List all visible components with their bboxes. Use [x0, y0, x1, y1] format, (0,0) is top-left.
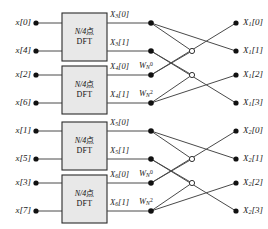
node-input-7: [33, 208, 38, 213]
input-label-3: x[6]: [2, 98, 31, 107]
output-4-idx: [0]: [252, 125, 264, 135]
node-input-3: [33, 100, 38, 105]
node-input-2: [33, 72, 38, 77]
twiddle-label-1: WN2: [139, 89, 153, 99]
output-label-6: X2[2]: [243, 178, 263, 187]
dft-box-3-n: N/4: [75, 189, 87, 198]
dft-box-label-3: N/4点 DFT: [62, 189, 107, 209]
node-output-7: [233, 208, 238, 213]
node-input-6: [33, 180, 38, 185]
intermediate-1-idx: [1]: [118, 37, 129, 47]
node-input-5: [33, 156, 38, 161]
node-junction-bot-1: [189, 180, 194, 185]
intermediate-4-idx: [0]: [118, 117, 129, 127]
node-stage1-4: [148, 128, 154, 134]
wire-bf-bot-d2: [151, 183, 236, 211]
dft-box-label-0: N/4点 DFT: [62, 27, 107, 47]
node-stage1-2: [148, 72, 154, 78]
intermediate-label-1: X3[1]: [110, 38, 129, 48]
output-label-3: X1[3]: [243, 98, 263, 107]
output-0-idx: [0]: [252, 17, 264, 27]
node-input-0: [33, 20, 38, 25]
node-stage1-0: [148, 20, 154, 26]
dft-box-3-cjk: 点: [86, 189, 94, 198]
wire-bf-top-a1: [151, 23, 236, 51]
output-label-7: X2[3]: [243, 206, 263, 215]
twiddle-3-sup: 2: [150, 197, 153, 203]
node-junction-top-0: [189, 48, 194, 53]
node-junction-top-1: [189, 72, 194, 77]
twiddle-2-sup: 0: [150, 169, 153, 175]
diagram-canvas: [0, 0, 268, 229]
wire-bf-bot-a2: [151, 131, 192, 159]
node-output-5: [233, 156, 238, 161]
input-label-4: x[1]: [2, 126, 31, 135]
intermediate-label-6: X6[0]: [110, 170, 129, 180]
node-input-1: [33, 48, 38, 53]
node-output-2: [233, 72, 238, 77]
node-output-6: [233, 180, 238, 185]
intermediate-label-7: X6[1]: [110, 198, 129, 208]
input-label-7: x[7]: [2, 206, 31, 215]
intermediate-3-idx: [1]: [118, 89, 129, 99]
dft-box-3-dft: DFT: [62, 199, 107, 209]
intermediate-6-idx: [0]: [118, 169, 129, 179]
output-3-idx: [3]: [252, 97, 264, 107]
intermediate-label-5: X5[1]: [110, 146, 129, 156]
node-junction-bot-0: [189, 156, 194, 161]
node-group-inputs: [33, 20, 38, 213]
output-label-1: X1[1]: [243, 46, 263, 55]
intermediate-7-idx: [1]: [118, 197, 129, 207]
dft-box-0-n: N/4: [75, 27, 87, 36]
input-label-2: x[2]: [2, 70, 31, 79]
node-group-stage1: [148, 20, 154, 214]
output-1-idx: [1]: [252, 45, 264, 55]
dft-box-0-dft: DFT: [62, 37, 107, 47]
node-group-junctions: [189, 48, 194, 185]
twiddle-0-sup: 0: [150, 61, 153, 67]
node-group-outputs: [233, 20, 238, 213]
dft-box-0-cjk: 点: [86, 27, 94, 36]
output-label-0: X1[0]: [243, 18, 263, 27]
dft-box-label-1: N/4点 DFT: [62, 80, 107, 100]
intermediate-label-2: X4[0]: [110, 62, 129, 72]
dft-box-1-dft: DFT: [62, 90, 107, 100]
wire-bf-bot-a1: [151, 131, 236, 159]
intermediate-label-4: X5[0]: [110, 118, 129, 128]
fft-butterfly-diagram: x[0] x[4] x[2] x[6] x[1] x[5] x[3] x[7] …: [0, 0, 268, 229]
output-2-idx: [2]: [252, 69, 264, 79]
intermediate-0-idx: [0]: [118, 9, 129, 19]
output-6-idx: [2]: [252, 177, 264, 187]
dft-box-2-n: N/4: [75, 136, 87, 145]
intermediate-2-idx: [0]: [118, 61, 129, 71]
input-label-1: x[4]: [2, 46, 31, 55]
input-label-5: x[5]: [2, 154, 31, 163]
wire-bf-top-d1: [151, 75, 192, 103]
dft-box-label-2: N/4点 DFT: [62, 136, 107, 156]
output-label-4: X2[0]: [243, 126, 263, 135]
intermediate-label-0: X3[0]: [110, 10, 129, 20]
node-stage1-1: [148, 48, 154, 54]
wire-bf-bot-d1: [151, 183, 192, 211]
node-output-3: [233, 100, 238, 105]
node-output-0: [233, 20, 238, 25]
dft-box-1-cjk: 点: [86, 80, 94, 89]
node-stage1-7: [148, 208, 154, 214]
node-output-1: [233, 48, 238, 53]
wire-bf-top-d2: [151, 75, 236, 103]
twiddle-label-0: WN0: [139, 61, 153, 71]
intermediate-label-3: X4[1]: [110, 90, 129, 100]
wire-bf-top-a2: [151, 23, 192, 51]
output-7-idx: [3]: [252, 205, 264, 215]
dft-box-2-dft: DFT: [62, 146, 107, 156]
dft-box-1-n: N/4: [75, 80, 87, 89]
twiddle-label-2: WN0: [139, 169, 153, 179]
node-output-4: [233, 128, 238, 133]
output-5-idx: [1]: [252, 153, 264, 163]
output-label-5: X2[1]: [243, 154, 263, 163]
input-label-0: x[0]: [2, 18, 31, 27]
input-label-6: x[3]: [2, 178, 31, 187]
node-input-4: [33, 128, 38, 133]
intermediate-5-idx: [1]: [118, 145, 129, 155]
node-stage1-3: [148, 100, 154, 106]
